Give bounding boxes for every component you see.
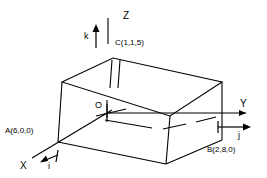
y-axis-label: Y [240, 99, 247, 109]
box-bottom-edges [58, 140, 222, 164]
point-label-b: B(2,8,0) [207, 146, 235, 154]
box-hidden-bottom-edges [105, 117, 216, 129]
origin-label: O [95, 101, 102, 110]
box-edge-front-vertical [166, 116, 170, 164]
c-vertex-tick [118, 60, 120, 88]
c-vertex-leader [118, 60, 120, 88]
box-hidden-vertical-edge [110, 60, 112, 88]
box-hidden-edge-vertical [110, 60, 112, 88]
i-arrow-head [40, 156, 48, 163]
z-axis-label: Z [123, 11, 129, 21]
y-axis [107, 110, 246, 116]
point-label-a: A(6,0,0) [5, 127, 33, 135]
unit-vector-j-arrow [218, 121, 251, 133]
diagram-canvas: Z k C(1,1,5) O Y j A(6,0,0) B(2,8,0) X i [0, 0, 267, 178]
y-axis-arrowhead [239, 110, 246, 116]
unit-vector-j-label: j [238, 131, 240, 140]
box-vertical-edges [58, 82, 222, 164]
z-axis [107, 18, 108, 118]
box-edge-left-vertical [58, 82, 62, 142]
unit-vector-k-arrow [93, 24, 100, 48]
box-hidden-edge-c [196, 117, 216, 122]
box-top-rim [62, 58, 222, 116]
box-hidden-edge-b [163, 124, 186, 129]
unit-vector-i-label: i [48, 162, 50, 171]
unit-vector-k-label: k [84, 32, 89, 41]
j-arrow-head [243, 124, 251, 131]
x-axis-label: X [20, 161, 27, 171]
box-edge-bottom-left-front [58, 142, 166, 164]
k-arrow-head [93, 24, 100, 32]
point-label-c: C(1,1,5) [115, 39, 144, 47]
box-hidden-edge-a [105, 120, 152, 128]
